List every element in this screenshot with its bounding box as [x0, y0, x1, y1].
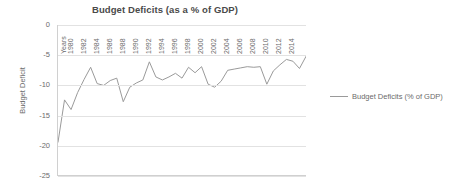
- y-tick-label: -25: [39, 172, 50, 180]
- x-tick-label: 1982: [80, 38, 87, 54]
- x-tick-label: 2008: [249, 38, 256, 54]
- x-tick-label: 1986: [106, 38, 113, 54]
- x-tick-label: 1996: [171, 38, 178, 54]
- x-tick-label: 2002: [210, 38, 217, 54]
- x-tick-label: 1980: [67, 38, 74, 54]
- gridline: [58, 116, 306, 117]
- y-tick-label: 0: [46, 21, 50, 29]
- legend-label: Budget Deficits (% of GDP): [352, 92, 443, 101]
- x-tick-label: 1992: [145, 38, 152, 54]
- y-tick-label: -10: [39, 81, 50, 89]
- x-tick-label: 2006: [236, 38, 243, 54]
- x-tick-label: 1988: [119, 38, 126, 54]
- x-tick-label: 2000: [197, 38, 204, 54]
- x-tick-label: 1984: [93, 38, 100, 54]
- y-tick-label: -5: [43, 51, 50, 59]
- gridline: [58, 146, 306, 147]
- x-tick-label: 1990: [132, 38, 139, 54]
- x-tick-label: 2014: [288, 38, 295, 54]
- x-tick-label: 2010: [262, 38, 269, 54]
- y-axis-ticks: 0-5-10-15-20-25: [24, 0, 50, 183]
- gridline: [58, 176, 306, 177]
- y-tick-label: -15: [39, 112, 50, 120]
- gridline: [58, 85, 306, 86]
- chart-legend: Budget Deficits (% of GDP): [330, 92, 443, 101]
- x-axis-ticks: Years19801982198419861988199019921994199…: [57, 26, 305, 56]
- x-tick-label: 2004: [223, 38, 230, 54]
- x-tick-label: 1994: [158, 38, 165, 54]
- chart-container: Budget Deficits (as a % of GDP) Budget D…: [0, 0, 460, 183]
- legend-line-icon: [330, 96, 348, 97]
- x-tick-label: 1998: [184, 38, 191, 54]
- x-tick-label: 2012: [275, 38, 282, 54]
- y-tick-label: -20: [39, 142, 50, 150]
- x-tick-label: Years: [60, 36, 67, 54]
